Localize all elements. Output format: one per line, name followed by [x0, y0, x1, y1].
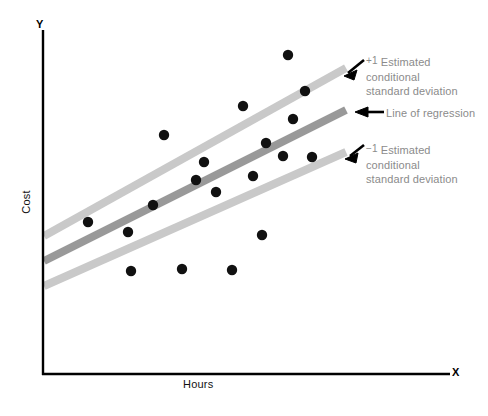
scatter-points-group — [83, 50, 317, 276]
upper-deviation-text: Estimated conditional standard deviation — [366, 56, 458, 97]
scatter-point — [283, 50, 293, 60]
scatter-point — [307, 152, 317, 162]
y-axis-title: Cost — [20, 172, 32, 232]
lower-deviation-sign: −1 — [366, 143, 378, 154]
middle-annotation-arrow-icon — [355, 107, 384, 117]
scatter-point — [257, 230, 267, 240]
regression-line-annotation: Line of regression — [386, 106, 488, 121]
scatter-point — [126, 266, 136, 276]
scatter-point — [123, 227, 133, 237]
scatter-point — [83, 217, 93, 227]
scatter-point — [191, 175, 201, 185]
scatter-point — [159, 130, 169, 140]
y-axis-end-label: Y — [36, 18, 44, 30]
scatter-plot-figure: Y X Cost Hours +1 Estimated conditional … — [0, 0, 488, 416]
upper-deviation-sign: +1 — [366, 55, 378, 66]
scatter-point — [248, 171, 258, 181]
lower-deviation-annotation: −1 Estimated conditional standard deviat… — [366, 142, 486, 187]
scatter-point — [278, 151, 288, 161]
scatter-point — [227, 265, 237, 275]
scatter-point — [211, 187, 221, 197]
scatter-point — [199, 157, 209, 167]
x-axis-title: Hours — [183, 378, 213, 390]
scatter-point — [177, 264, 187, 274]
lower-annotation-arrow-icon — [345, 145, 364, 163]
scatter-point — [238, 101, 248, 111]
scatter-point — [300, 86, 310, 96]
x-axis-end-label: X — [452, 366, 460, 378]
scatter-point — [148, 200, 158, 210]
scatter-point — [261, 138, 271, 148]
line-of-regression — [44, 110, 346, 261]
scatter-point — [288, 114, 298, 124]
upper-deviation-annotation: +1 Estimated conditional standard deviat… — [366, 54, 486, 99]
lower-deviation-text: Estimated conditional standard deviation — [366, 144, 458, 185]
